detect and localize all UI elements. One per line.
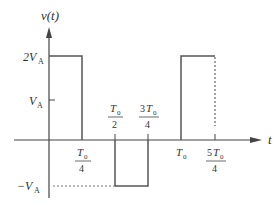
svg-text:A: A bbox=[34, 186, 40, 195]
label-5t0-4: 5 T 0 4 bbox=[206, 146, 226, 174]
svg-text:0: 0 bbox=[117, 109, 121, 117]
waveform-pulse-1 bbox=[49, 56, 82, 140]
svg-text:4: 4 bbox=[145, 119, 150, 130]
waveform-pulse-2 bbox=[181, 56, 215, 140]
label-t0-4: T 0 4 bbox=[75, 146, 91, 174]
svg-text:4: 4 bbox=[212, 163, 217, 174]
svg-text:T: T bbox=[146, 102, 153, 114]
svg-text:4: 4 bbox=[79, 163, 84, 174]
label-3t0-4: 3 T 0 4 bbox=[139, 102, 159, 130]
svg-text:T: T bbox=[176, 146, 183, 158]
x-axis-label: t bbox=[268, 132, 272, 147]
svg-text:0: 0 bbox=[220, 153, 224, 161]
svg-text:A: A bbox=[37, 101, 43, 110]
svg-text:2V: 2V bbox=[23, 50, 38, 64]
y-axis-label: v(t) bbox=[41, 8, 59, 23]
label-2va: 2V A bbox=[23, 50, 44, 66]
x-axis-arrow-icon bbox=[250, 137, 262, 143]
label-va: V A bbox=[29, 94, 43, 110]
svg-text:T: T bbox=[213, 146, 220, 158]
svg-text:0: 0 bbox=[183, 153, 187, 161]
label-t0-2: T 0 2 bbox=[108, 102, 123, 130]
waveform-pulse-neg bbox=[115, 140, 148, 186]
svg-text:T: T bbox=[110, 102, 117, 114]
svg-text:3: 3 bbox=[140, 103, 145, 114]
svg-text:A: A bbox=[38, 57, 44, 66]
svg-text:5: 5 bbox=[207, 147, 212, 158]
y-axis-arrow-icon bbox=[46, 27, 52, 38]
svg-text:−V: −V bbox=[17, 179, 34, 193]
svg-text:T: T bbox=[77, 146, 84, 158]
label-neg-va: −V A bbox=[17, 179, 40, 195]
svg-text:2: 2 bbox=[112, 119, 117, 130]
waveform-diagram: v(t) t 2V A V A −V A T 0 4 T 0 2 3 T 0 4… bbox=[0, 0, 277, 204]
svg-text:0: 0 bbox=[84, 153, 88, 161]
label-t0: T 0 bbox=[176, 146, 187, 161]
svg-text:0: 0 bbox=[153, 109, 157, 117]
